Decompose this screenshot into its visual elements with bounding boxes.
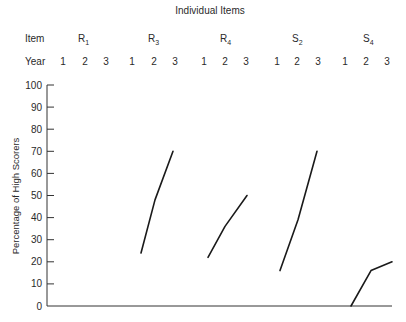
year-label: 3 bbox=[243, 56, 249, 67]
y-axis-label: Percentage of High Scorers bbox=[10, 137, 21, 254]
year-label: 3 bbox=[172, 56, 178, 67]
year-label: 2 bbox=[82, 56, 88, 67]
series-line-s2 bbox=[280, 151, 317, 270]
series-line-r3 bbox=[141, 151, 173, 253]
y-tick-label: 10 bbox=[31, 278, 43, 289]
year-label: 3 bbox=[384, 56, 390, 67]
item-label-r3: R3 bbox=[148, 33, 159, 46]
year-label: 2 bbox=[294, 56, 300, 67]
year-label: 1 bbox=[129, 56, 135, 67]
y-tick-label: 30 bbox=[31, 234, 43, 245]
item-label-s2: S2 bbox=[292, 33, 303, 46]
year-label: 2 bbox=[222, 56, 228, 67]
y-tick-label: 50 bbox=[31, 190, 43, 201]
y-tick-label: 90 bbox=[31, 102, 43, 113]
year-labels: 123123123123123 bbox=[60, 56, 390, 67]
year-label: 1 bbox=[274, 56, 280, 67]
series-lines bbox=[141, 151, 392, 306]
y-tick-label: 40 bbox=[31, 212, 43, 223]
series-line-s4 bbox=[351, 262, 392, 306]
year-label: 1 bbox=[201, 56, 207, 67]
y-tick-label: 60 bbox=[31, 168, 43, 179]
chart-title: Individual Items bbox=[175, 5, 244, 16]
item-row-label: Item bbox=[25, 33, 44, 44]
y-axis: 0102030405060708090100 bbox=[25, 80, 54, 312]
series-line-r4 bbox=[208, 196, 247, 258]
y-tick-label: 0 bbox=[36, 301, 42, 312]
item-label-s4: S4 bbox=[363, 33, 374, 46]
year-label: 1 bbox=[342, 56, 348, 67]
year-label: 3 bbox=[103, 56, 109, 67]
year-label: 2 bbox=[151, 56, 157, 67]
year-label: 1 bbox=[60, 56, 66, 67]
y-tick-label: 70 bbox=[31, 146, 43, 157]
item-labels: R1R3R4S2S4 bbox=[78, 33, 374, 46]
y-tick-label: 80 bbox=[31, 124, 43, 135]
y-tick-label: 100 bbox=[25, 80, 42, 91]
item-label-r4: R4 bbox=[220, 33, 231, 46]
y-tick-label: 20 bbox=[31, 256, 43, 267]
year-label: 3 bbox=[315, 56, 321, 67]
year-label: 2 bbox=[363, 56, 369, 67]
chart: Individual Items Item Year R1R3R4S2S4 12… bbox=[0, 0, 406, 322]
year-row-label: Year bbox=[25, 56, 46, 67]
item-label-r1: R1 bbox=[78, 33, 89, 46]
